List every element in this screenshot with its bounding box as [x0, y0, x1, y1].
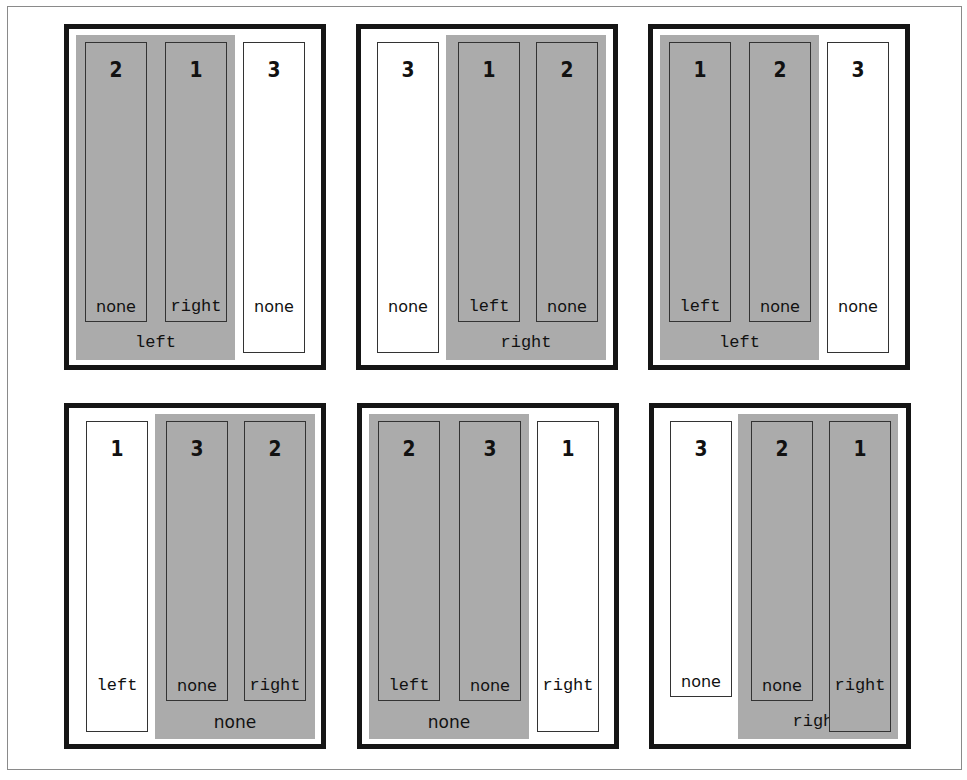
box-float-label: right [830, 676, 890, 695]
panel-3: left 1 left 2 none 3 none [648, 24, 910, 370]
box-float-label: left [459, 297, 519, 316]
panel-5: none 2 left 3 none 1 right [357, 403, 619, 749]
box: 3 none [377, 42, 439, 353]
group-float-label: left [660, 333, 819, 352]
box-float-label: none [537, 297, 597, 316]
box-number: 1 [171, 57, 222, 82]
box-number: 2 [757, 436, 808, 461]
box-number: 3 [249, 57, 300, 82]
box: 3 none [670, 421, 732, 697]
box: 3 none [243, 42, 305, 353]
box: 1 right [829, 421, 891, 732]
box-float-label: left [670, 297, 730, 316]
box-float-label: none [378, 297, 438, 316]
box: 2 none [749, 42, 811, 322]
group-float-label: none [155, 712, 315, 732]
box: 3 none [459, 421, 521, 701]
box-float-label: none [86, 297, 146, 316]
box-number: 1 [92, 436, 143, 461]
box-float-label: left [87, 676, 147, 695]
box-float-label: right [245, 676, 305, 695]
box-float-label: none [460, 676, 520, 695]
box: 2 none [536, 42, 598, 322]
box-float-label: right [166, 297, 226, 316]
box: 2 none [85, 42, 147, 322]
box-number: 1 [464, 57, 515, 82]
box-number: 3 [676, 436, 727, 461]
box: 1 left [458, 42, 520, 322]
box-number: 1 [675, 57, 726, 82]
box-number: 3 [172, 436, 223, 461]
box: 1 right [165, 42, 227, 322]
box: 2 right [244, 421, 306, 701]
box-float-label: right [538, 676, 598, 695]
box-float-label: none [167, 676, 227, 695]
box-number: 2 [542, 57, 593, 82]
box-float-label: none [244, 297, 304, 316]
box: 1 left [86, 421, 148, 732]
box-number: 1 [543, 436, 594, 461]
box-number: 3 [833, 57, 884, 82]
panel-4: none 1 left 3 none 2 right [64, 403, 326, 749]
group-float-label: none [369, 712, 529, 732]
box-number: 1 [835, 436, 886, 461]
box-number: 3 [465, 436, 516, 461]
box-float-label: left [379, 676, 439, 695]
panel-2: right 3 none 1 left 2 none [356, 24, 618, 370]
box-number: 2 [250, 436, 301, 461]
group-float-label: left [76, 333, 235, 352]
box-float-label: none [752, 676, 812, 695]
box-number: 2 [91, 57, 142, 82]
box: 1 left [669, 42, 731, 322]
box-number: 2 [384, 436, 435, 461]
box: 3 none [166, 421, 228, 701]
box: 2 left [378, 421, 440, 701]
box: 1 right [537, 421, 599, 732]
box-float-label: none [750, 297, 810, 316]
box-float-label: none [828, 297, 888, 316]
group-float-label: right [446, 333, 606, 352]
panel-6: right 3 none 2 none 1 right [649, 403, 911, 749]
panel-1: left 2 none 1 right 3 none [64, 24, 326, 370]
box-float-label: none [671, 672, 731, 691]
box-number: 2 [755, 57, 806, 82]
box: 2 none [751, 421, 813, 701]
box: 3 none [827, 42, 889, 353]
box-number: 3 [383, 57, 434, 82]
